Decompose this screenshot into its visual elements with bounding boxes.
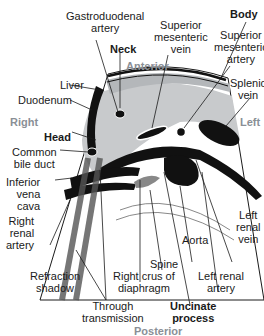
label-common-bile-duct: Commonbile duct [12, 146, 57, 170]
label-smv: Superiormesentericvein [154, 19, 208, 55]
label-right-crus: Right crus ofdiaphragm [113, 270, 175, 294]
label-through-transmission: Throughtransmission [82, 300, 144, 324]
label-liver: Liver [60, 79, 84, 91]
label-inferior-vena-cava: Inferiorvenacava [6, 176, 40, 212]
label-spine: Spine [150, 258, 178, 270]
label-left-renal-artery: Left renalartery [198, 270, 244, 294]
label-left-renal-vein: Leftrenalvein [236, 209, 260, 245]
label-neck: Neck [110, 43, 136, 55]
label-right: Right [10, 116, 38, 128]
label-aorta: Aorta [182, 234, 208, 246]
label-refraction-shadow: Refractionshadow [30, 270, 80, 294]
label-uncinate-process: Uncinateprocess [170, 300, 216, 324]
label-anterior: Anterior [126, 60, 169, 72]
label-sma: Superiormesentericartery [214, 29, 264, 65]
label-right-renal-artery: Rightrenalartery [6, 215, 34, 251]
label-gastroduodenal-artery: Gastroduodenalartery [66, 10, 144, 34]
label-posterior: Posterior [134, 325, 182, 336]
label-body: Body [230, 8, 258, 20]
label-duodenum: Duodenum [18, 94, 72, 106]
label-head: Head [44, 131, 71, 143]
label-splenic-vein: Splenicvein [230, 77, 264, 101]
label-left: Left [240, 116, 260, 128]
